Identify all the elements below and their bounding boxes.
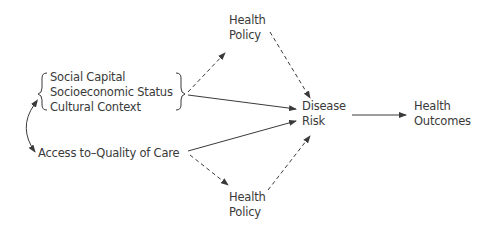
label-disease: Disease [302,99,346,114]
edge-social-to-disease [188,95,296,109]
label-health-bottom: Health [229,190,266,205]
edge-access-to-policy-bottom [190,155,228,185]
label-risk: Risk [302,114,346,129]
label-health-top: Health [229,13,266,28]
label-policy-bottom: Policy [229,205,266,220]
health-outcomes-node: Health Outcomes [414,99,471,129]
edge-access-to-disease [188,121,296,151]
edge-social-to-policy-top [188,53,225,92]
causal-diagram: Social Capital Socioeconomic Status Cult… [0,0,498,234]
left-brace [38,73,47,110]
right-brace [176,73,185,110]
disease-risk-node: Disease Risk [302,99,346,129]
label-access-quality-care: Access to–Quality of Care [38,146,179,161]
label-socioeconomic-status: Socioeconomic Status [50,85,173,100]
health-policy-top-node: Health Policy [229,13,266,43]
social-factors-group: Social Capital Socioeconomic Status Cult… [50,70,173,115]
label-health-outcomes-2: Outcomes [414,114,471,129]
access-node: Access to–Quality of Care [38,146,179,161]
edge-policy-top-to-disease [270,32,310,98]
health-policy-bottom-node: Health Policy [229,190,266,220]
label-cultural-context: Cultural Context [50,100,173,115]
label-health-outcomes-1: Health [414,99,471,114]
edge-social-access-curve [26,105,35,152]
label-social-capital: Social Capital [50,70,173,85]
edge-policy-bottom-to-disease [268,136,310,190]
label-policy-top: Policy [229,28,266,43]
